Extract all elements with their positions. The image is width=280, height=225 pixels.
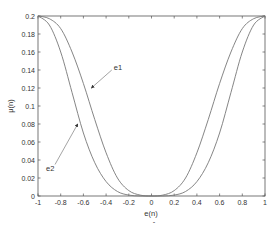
y-axis-label: μ(n) [6,99,15,113]
y-tick-label: 0.2 [25,13,35,20]
y-tick-label: 0.08 [21,121,35,128]
annotation-e2: e2 [46,164,54,173]
series-e2 [38,16,265,196]
annotations: e1e2 [46,63,122,173]
axis-ticks: -1-0.8-0.6-0.4-0.200.20.40.60.8100.020.0… [21,13,267,207]
x-tick-label: -0.4 [100,199,112,206]
plot-frame [38,16,265,196]
y-tick-label: 0 [31,193,35,200]
x-tick-label: -1 [35,199,41,206]
y-tick-label: 0.1 [25,103,35,110]
plot-area [38,16,265,196]
annotation-arrow [91,70,111,88]
x-tick-label: 0.6 [215,199,225,206]
y-tick-label: 0.12 [21,85,35,92]
y-tick-label: 0.16 [21,49,35,56]
series-e1 [38,16,265,196]
x-tick-label: 0 [150,199,154,206]
x-tick-label: 0.2 [169,199,179,206]
y-tick-label: 0.02 [21,175,35,182]
annotation-e1: e1 [114,63,122,72]
x-axis-label: e(n) [144,209,158,218]
x-axis-footnote-mark: - [153,217,156,225]
y-tick-label: 0.14 [21,67,35,74]
x-tick-label: 0.4 [192,199,202,206]
x-tick-label: -0.6 [77,199,89,206]
line-chart: -1-0.8-0.6-0.4-0.200.20.40.60.8100.020.0… [0,0,280,225]
y-tick-label: 0.04 [21,157,35,164]
x-tick-label: 1 [263,199,267,206]
x-tick-label: 0.8 [237,199,247,206]
y-tick-label: 0.18 [21,31,35,38]
x-tick-label: -0.2 [123,199,135,206]
x-tick-label: -0.8 [55,199,67,206]
data-series [38,16,265,196]
annotation-arrow [55,124,78,165]
y-tick-label: 0.06 [21,139,35,146]
